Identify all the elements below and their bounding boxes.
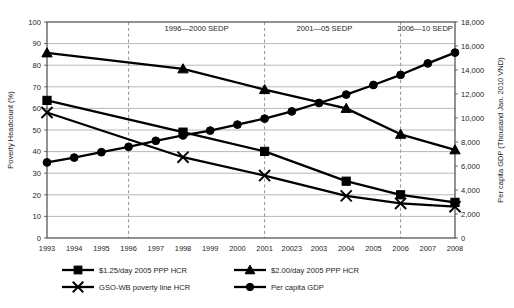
y-axis-left-title: Poverty Headcount (%): [6, 91, 15, 169]
legend-item: $2.00/day 2005 PPP HCR: [234, 265, 360, 275]
marker-square: [451, 198, 459, 206]
marker-circle: [152, 137, 160, 145]
y-tick-label-left: 10: [33, 212, 41, 221]
x-tick-label: 1994: [66, 244, 82, 253]
marker-square: [397, 191, 405, 199]
marker-circle: [397, 71, 405, 79]
period-label: 1996—2000 SEDP: [165, 24, 229, 33]
period-label: 2001—05 SEDP: [297, 24, 353, 33]
x-tick-label: 1999: [202, 244, 218, 253]
legend-item: $1.25/day 2005 PPP HCR: [62, 266, 188, 275]
legend-label: GSO-WB poverty line HCR: [99, 283, 191, 292]
x-tick-label: 2000: [229, 244, 245, 253]
legend-item: GSO-WB poverty line HCR: [62, 282, 191, 293]
x-tick-label: 2004: [338, 244, 354, 253]
series-triangle: [42, 48, 460, 154]
x-tick-label: 1997: [148, 244, 164, 253]
x-tick-label: 1995: [93, 244, 109, 253]
marker-circle: [424, 60, 432, 68]
y-tick-label-left: 70: [33, 83, 41, 92]
poverty-gdp-line-chart: 0102030405060708090100 02,0004,0006,0008…: [0, 0, 514, 308]
marker-circle: [234, 121, 242, 129]
marker-circle: [342, 91, 350, 99]
marker-circle: [179, 132, 187, 140]
marker-circle: [315, 99, 323, 107]
marker-square: [74, 266, 82, 274]
y-tick-label-left: 90: [33, 39, 41, 48]
marker-circle: [261, 115, 269, 123]
y-tick-label-right: 14,000: [461, 66, 484, 75]
y-tick-label-left: 40: [33, 147, 41, 156]
series-line: [47, 53, 455, 163]
y-tick-label-right: 4,000: [461, 186, 480, 195]
legend-label: Per capita GDP: [271, 283, 324, 292]
x-tick-label: 1993: [39, 244, 55, 253]
y-axis-right-title: Per capita GDP (Thousand Jan. 2010 VND): [496, 57, 505, 203]
legend-label: $2.00/day 2005 PPP HCR: [271, 266, 360, 275]
marker-circle: [451, 49, 459, 57]
y-tick-label-left: 60: [33, 104, 41, 113]
y-tick-label-left: 100: [28, 18, 41, 27]
y-tick-label-left: 30: [33, 169, 41, 178]
marker-square: [342, 177, 350, 185]
y-tick-label-right: 8,000: [461, 138, 480, 147]
y-tick-label-right: 2,000: [461, 210, 480, 219]
x-tick-label: 2005: [365, 244, 381, 253]
y-tick-label-right: 10,000: [461, 114, 484, 123]
chart-figure: 0102030405060708090100 02,0004,0006,0008…: [0, 0, 514, 308]
legend-item: Per capita GDP: [234, 283, 324, 292]
marker-square: [261, 147, 269, 155]
legend-label: $1.25/day 2005 PPP HCR: [99, 266, 188, 275]
y-tick-label-right: 6,000: [461, 162, 480, 171]
y-axis-left-ticks: 0102030405060708090100: [28, 18, 47, 243]
x-axis-ticks: 1993199419951996199719981999200020012002…: [39, 244, 463, 253]
x-tick-label: 2007: [420, 244, 436, 253]
period-annotations-group: 1996—2000 SEDP2001—05 SEDP2006—10 SEDP: [165, 24, 453, 33]
x-tick-label: 20023: [282, 244, 303, 253]
y-tick-label-right: 12,000: [461, 90, 484, 99]
y-axis-right-ticks: 02,0004,0006,0008,00010,00012,00014,0001…: [455, 18, 484, 243]
marker-circle: [70, 154, 78, 162]
y-tick-label-right: 18,000: [461, 18, 484, 27]
marker-square: [43, 96, 51, 104]
y-tick-label-left: 50: [33, 126, 41, 135]
y-tick-label-right: 16,000: [461, 42, 484, 51]
marker-circle: [43, 159, 51, 167]
chart-legend: $1.25/day 2005 PPP HCR$2.00/day 2005 PPP…: [62, 265, 360, 292]
marker-circle: [206, 127, 214, 135]
y-tick-label-right: 0: [461, 234, 465, 243]
marker-circle: [98, 148, 106, 156]
x-tick-label: 2003: [311, 244, 327, 253]
x-tick-label: 1996: [120, 244, 136, 253]
y-tick-label-left: 80: [33, 61, 41, 70]
period-label: 2006—10 SEDP: [397, 24, 453, 33]
marker-circle: [246, 283, 253, 290]
y-tick-label-left: 20: [33, 191, 41, 200]
x-tick-label: 2006: [392, 244, 408, 253]
marker-circle: [288, 108, 296, 116]
series-line: [47, 53, 455, 150]
x-tick-label: 1998: [175, 244, 191, 253]
marker-circle: [125, 143, 133, 151]
y-tick-label-left: 0: [37, 234, 41, 243]
x-tick-label: 2001: [256, 244, 272, 253]
x-tick-label: 2008: [447, 244, 463, 253]
marker-circle: [370, 81, 378, 89]
